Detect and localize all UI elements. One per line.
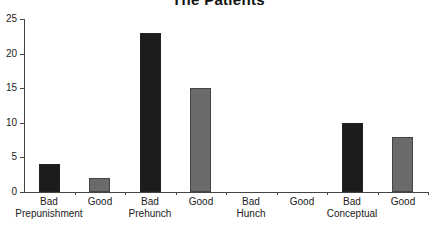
x-category-label-line: Hunch — [216, 208, 286, 220]
y-tick-label: 15 — [0, 83, 17, 93]
y-tick-label: 20 — [0, 49, 17, 59]
x-category-label-line: Conceptual — [317, 208, 387, 220]
x-tick — [125, 192, 126, 195]
bar — [342, 123, 363, 192]
y-tick-label: 25 — [0, 14, 17, 24]
y-tick — [20, 192, 24, 193]
y-tick-label: 5 — [0, 152, 17, 162]
chart-title: The Patients — [0, 0, 437, 8]
x-category-label-line: Prepunishment — [14, 208, 84, 220]
y-tick — [20, 157, 24, 158]
x-tick — [176, 192, 177, 195]
x-tick — [378, 192, 379, 195]
y-tick-label: 10 — [0, 118, 17, 128]
y-tick — [20, 123, 24, 124]
bar — [190, 88, 211, 192]
y-tick — [20, 54, 24, 55]
x-tick — [277, 192, 278, 195]
x-tick — [428, 192, 429, 195]
x-category-label: Good — [368, 196, 437, 208]
x-tick — [327, 192, 328, 195]
bar — [140, 33, 161, 192]
y-tick — [20, 88, 24, 89]
x-tick — [226, 192, 227, 195]
y-tick — [20, 19, 24, 20]
bar — [89, 178, 110, 192]
x-tick — [75, 192, 76, 195]
x-category-label-line: Prehunch — [115, 208, 185, 220]
x-category-label-line: Good — [368, 196, 437, 208]
y-axis-line — [24, 19, 25, 192]
bar — [392, 137, 413, 192]
bar — [39, 164, 60, 192]
